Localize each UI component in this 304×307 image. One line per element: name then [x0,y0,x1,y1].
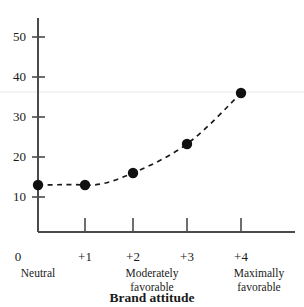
data-point-2 [128,168,138,178]
x-axis-label-origin: 0 [8,250,28,263]
x-axis-label-plus2: +2 [113,250,153,263]
x-axis-title: Brand attitude [0,290,304,305]
y-axis-label-50: 50 [0,30,26,43]
y-axis-label-40: 40 [0,70,26,83]
x-axis-category-neutral: Neutral [0,267,84,281]
y-axis-label-20: 20 [0,150,26,163]
x-axis-label-plus3: +3 [167,250,207,263]
y-axis-label-30: 30 [0,110,26,123]
data-point-markers [33,88,246,190]
y-axis-label-10: 10 [0,190,26,203]
x-axis-ticks [85,218,241,232]
data-point-1 [80,180,90,190]
data-series-line [38,93,241,185]
x-axis-category-maximally-line1: Maximally [213,267,304,281]
data-point-3 [182,139,192,149]
x-axis-label-plus1: +1 [65,250,105,263]
data-point-4 [236,88,246,98]
x-axis-category-moderately-line1: Moderately [106,267,198,281]
data-point-0 [33,180,43,190]
brand-attitude-chart: 50 40 30 20 10 0 +1 +2 +3 +4 Neutral Mod… [0,0,304,307]
x-axis-label-plus4: +4 [221,250,261,263]
